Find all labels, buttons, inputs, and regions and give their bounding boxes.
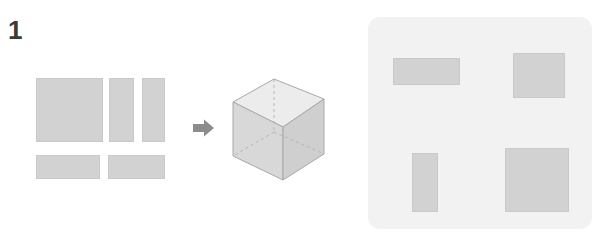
large-square-face (36, 78, 103, 142)
panel-rect-top-left (393, 58, 460, 85)
right-arrow-icon (192, 118, 216, 138)
flat-faces-group (0, 0, 180, 243)
tall-face-left (109, 78, 134, 142)
panel-rect-bottom-right (505, 148, 569, 212)
wide-face-right (108, 155, 165, 179)
panel-rect-bottom-left (412, 153, 438, 212)
wide-face-left (36, 155, 100, 179)
result-panel (368, 17, 592, 229)
figure-canvas: 1 (0, 0, 601, 243)
panel-rect-top-right (513, 53, 565, 98)
cuboid-3d (224, 72, 340, 190)
tall-face-right (142, 78, 165, 142)
